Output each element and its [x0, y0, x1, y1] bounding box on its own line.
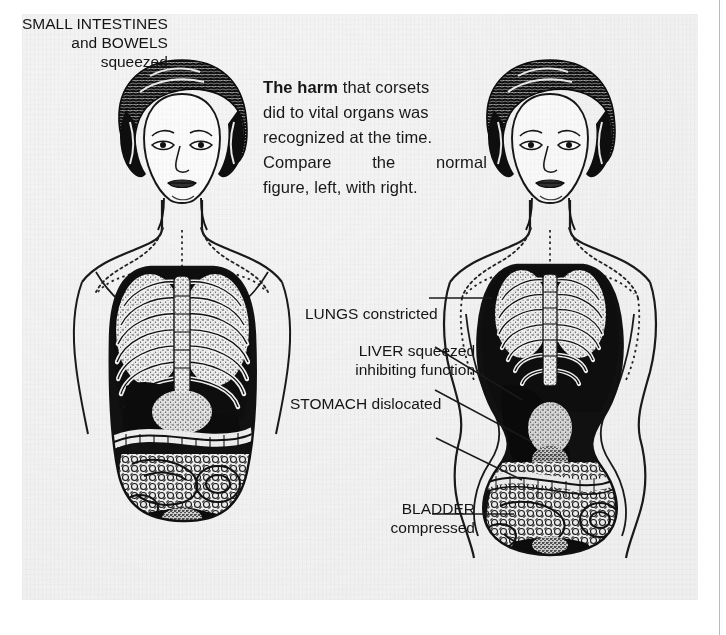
- annotation-intestines-line-3: squeezed: [22, 52, 168, 71]
- caption-line-5: figure, left, with right.: [263, 175, 487, 200]
- caption-text: The harm that corsets did to vital organ…: [263, 75, 487, 200]
- caption-line-4-word-1: Compare: [263, 150, 332, 175]
- annotation-bladder-line-2: compressed: [290, 518, 475, 537]
- annotation-lungs-line-1: LUNGS constricted: [305, 304, 438, 323]
- page-root: The harm that corsets did to vital organ…: [0, 0, 726, 635]
- caption-line-3: recognized at the time.: [263, 125, 487, 150]
- annotation-liver-line-1: LIVER squeezed: [280, 341, 475, 360]
- annotation-lungs: LUNGS constricted: [305, 304, 438, 323]
- annotation-bladder-line-1: BLADDER: [290, 499, 475, 518]
- annotation-intestines-line-1: SMALL INTESTINES: [22, 14, 168, 33]
- illustration-panel: The harm that corsets did to vital organ…: [22, 14, 698, 600]
- caption-line-4-word-2: the: [372, 150, 395, 175]
- caption-line-4-word-3: normal: [436, 150, 487, 175]
- annotation-intestines: SMALL INTESTINES and BOWELS squeezed: [22, 14, 168, 71]
- annotation-stomach-line-1: STOMACH dislocated: [290, 394, 441, 413]
- annotation-stomach: STOMACH dislocated: [290, 394, 441, 413]
- annotation-liver: LIVER squeezed inhibiting function: [280, 341, 475, 379]
- annotation-bladder: BLADDER compressed: [290, 499, 475, 537]
- caption-line-1-tail: that corsets: [343, 78, 430, 96]
- page-margin-rule: [719, 0, 720, 635]
- caption-line-4: Compare the normal: [263, 150, 487, 175]
- caption-line-1: The harm that corsets: [263, 75, 487, 100]
- annotation-intestines-line-2: and BOWELS: [22, 33, 168, 52]
- annotation-liver-line-2: inhibiting function: [280, 360, 475, 379]
- caption-line-2: did to vital organs was: [263, 100, 487, 125]
- caption-lead-in: The harm: [263, 78, 338, 96]
